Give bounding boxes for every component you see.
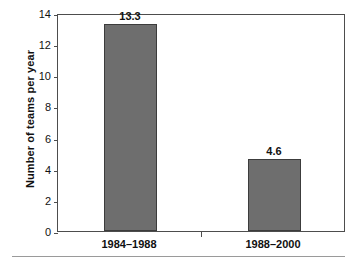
x-axis-tick-mark (201, 232, 202, 237)
bar-chart-figure: Number of teams per year 0246810121413.3… (0, 0, 360, 265)
bar: 13.3 (104, 24, 157, 231)
plot-inner: 0246810121413.34.6 (58, 15, 344, 231)
y-axis-tick-label: 8 (45, 101, 51, 114)
y-axis-tick-label: 2 (45, 195, 51, 208)
y-axis-tick-label: 14 (39, 8, 51, 21)
bar-value-label: 4.6 (266, 145, 281, 157)
plot-area: 0246810121413.34.6 (57, 14, 345, 232)
y-axis-tick-mark (54, 15, 58, 16)
y-axis-title: Number of teams per year (24, 9, 36, 229)
x-axis-category-label: 1988–2000 (245, 238, 300, 250)
bottom-separator-rule (12, 256, 345, 257)
bar-value-label: 13.3 (119, 10, 140, 22)
y-axis-tick-label: 4 (45, 164, 51, 177)
bar: 4.6 (248, 159, 301, 231)
y-axis-tick-label: 12 (39, 39, 51, 52)
y-axis-tick-mark (54, 46, 58, 47)
x-axis-category-label: 1984–1988 (101, 238, 156, 250)
y-axis-tick-mark (54, 202, 58, 203)
y-axis-tick-label: 10 (39, 70, 51, 83)
y-axis-tick-mark (54, 140, 58, 141)
y-axis-tick-mark (54, 171, 58, 172)
y-axis-tick-label: 0 (45, 226, 51, 239)
y-axis-tick-label: 6 (45, 133, 51, 146)
y-axis-tick-mark (54, 108, 58, 109)
y-axis-tick-mark (54, 77, 58, 78)
y-axis-tick-mark (54, 233, 58, 234)
